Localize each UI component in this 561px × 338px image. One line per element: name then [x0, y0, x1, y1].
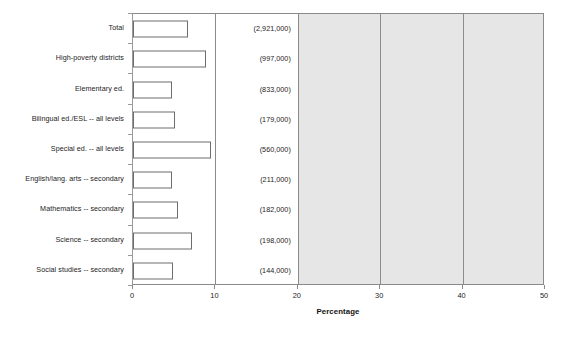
shaded-region: [298, 14, 544, 284]
x-axis-title: Percentage: [132, 307, 544, 316]
x-tick-mark: [132, 285, 133, 289]
bar: [133, 232, 192, 249]
bar: [133, 81, 172, 98]
bar: [133, 202, 178, 219]
value-annotation: (833,000): [260, 86, 291, 94]
x-tick-label: 10: [210, 291, 218, 300]
value-annotation: (179,000): [260, 116, 291, 124]
category-label: Elementary ed.: [75, 85, 124, 93]
x-tick-mark: [462, 285, 463, 289]
bar: [133, 142, 211, 159]
x-axis-ticks: 01020304050: [132, 285, 544, 307]
x-tick-label: 40: [457, 291, 465, 300]
x-tick-mark: [544, 285, 545, 289]
value-annotation: (2,921,000): [254, 25, 291, 33]
bar: [133, 262, 173, 279]
value-annotation: (198,000): [260, 237, 291, 245]
plot-area: (2,921,000)(997,000)(833,000)(179,000)(5…: [132, 13, 544, 285]
x-tick-label: 50: [540, 291, 548, 300]
bar: [133, 51, 206, 68]
category-label: English/lang. arts -- secondary: [25, 175, 124, 183]
value-annotation: (997,000): [260, 55, 291, 63]
category-axis-labels: TotalHigh-poverty districtsElementary ed…: [0, 13, 128, 285]
value-annotation: (211,000): [260, 176, 291, 184]
x-tick-label: 20: [293, 291, 301, 300]
value-annotation: (560,000): [260, 146, 291, 154]
bar: [133, 21, 188, 38]
category-label: Special ed. -- all levels: [51, 145, 124, 153]
category-label: Science -- secondary: [55, 236, 124, 244]
x-tick-mark: [379, 285, 380, 289]
bar-chart: TotalHigh-poverty districtsElementary ed…: [0, 0, 561, 338]
bar: [133, 111, 175, 128]
value-annotation: (144,000): [260, 267, 291, 275]
x-tick-mark: [297, 285, 298, 289]
gridline: [215, 14, 216, 284]
value-annotation: (182,000): [260, 206, 291, 214]
x-tick-mark: [214, 285, 215, 289]
gridline: [463, 14, 464, 284]
category-label: Social studies -- secondary: [36, 266, 124, 274]
bar: [133, 172, 172, 189]
x-tick-label: 30: [375, 291, 383, 300]
x-tick-label: 0: [130, 291, 134, 300]
gridline: [298, 14, 299, 284]
category-label: High-poverty districts: [56, 54, 124, 62]
category-label: Mathematics -- secondary: [40, 205, 124, 213]
gridline: [380, 14, 381, 284]
category-label: Bilingual ed./ESL -- all levels: [32, 115, 124, 123]
category-label: Total: [109, 24, 124, 32]
